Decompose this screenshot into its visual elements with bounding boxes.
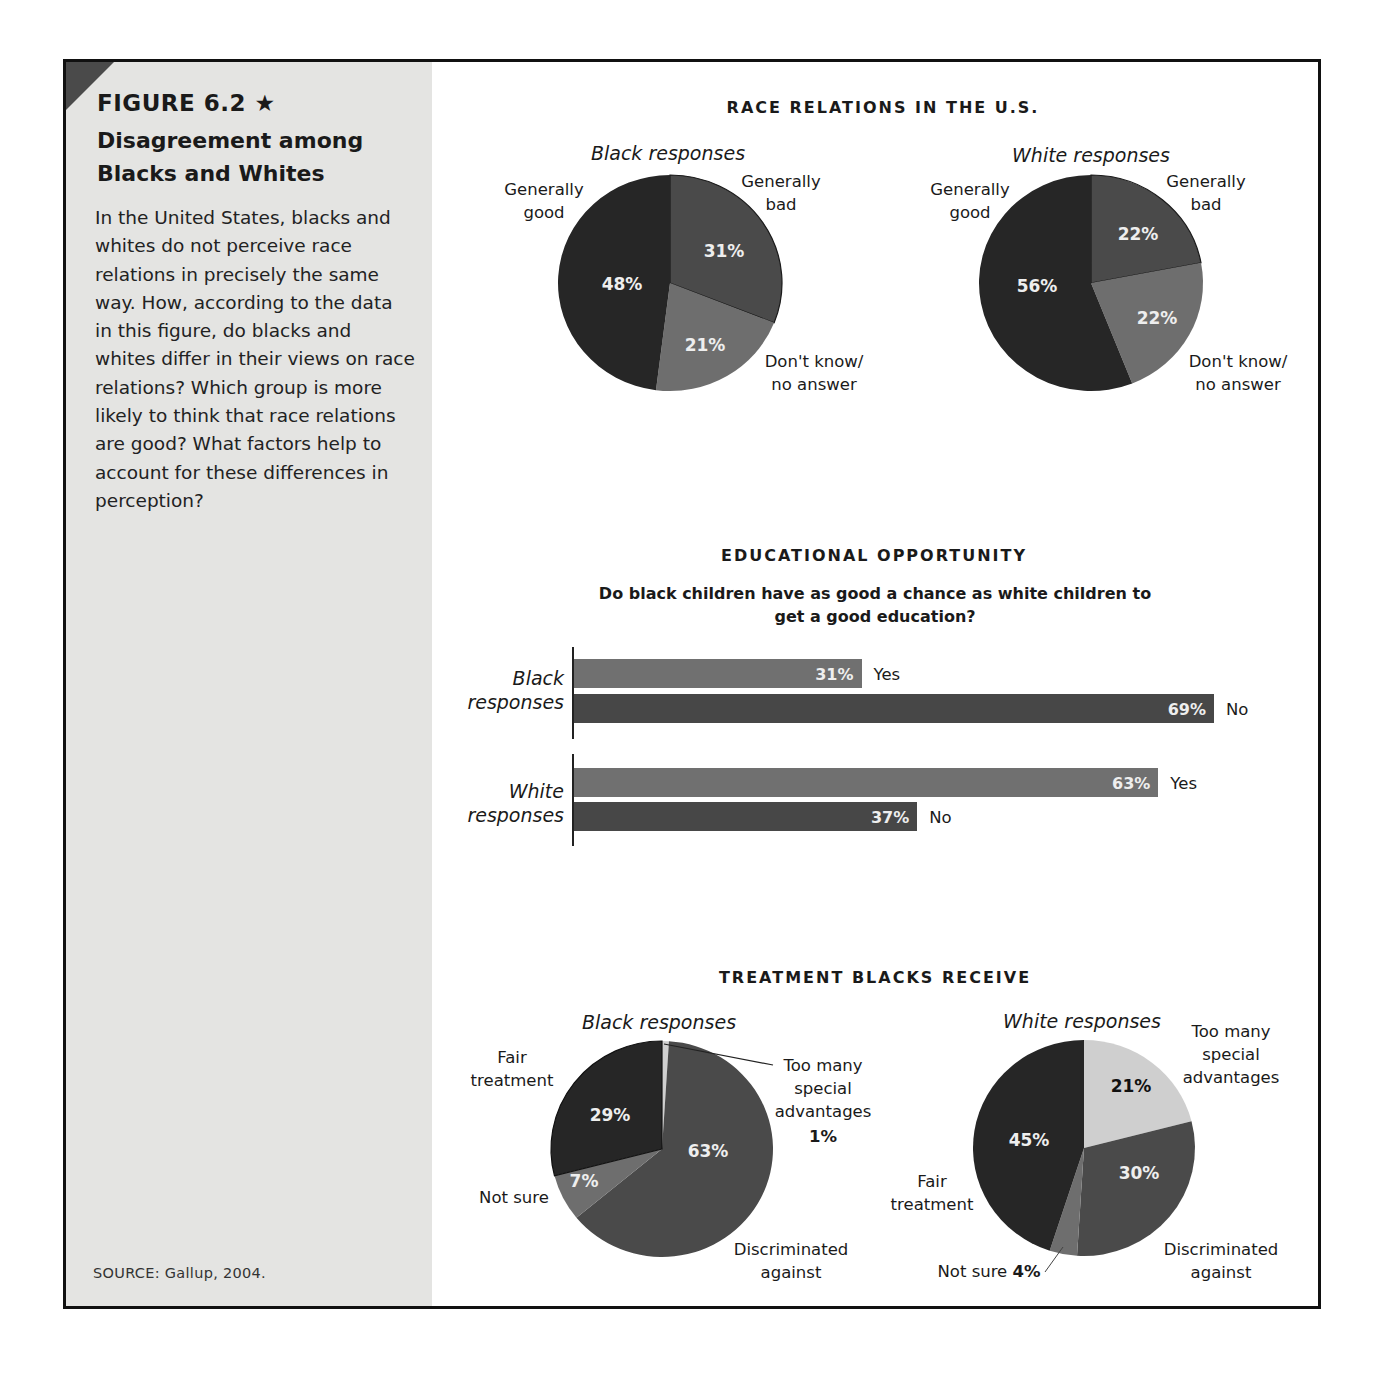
treatment-black-value-too-many: 1%	[809, 1125, 837, 1148]
treatment-black-pie	[550, 1039, 774, 1259]
race-white-value-bad: 22%	[1118, 224, 1159, 244]
education-black-yes-value: 31%	[815, 664, 853, 683]
race-black-label-good: Generallygood	[504, 178, 583, 224]
education-black-label: Blackresponses	[464, 666, 564, 714]
treatment-white-label-fair: Fairtreatment	[891, 1170, 974, 1216]
race-white-value-good: 56%	[1017, 276, 1058, 296]
not-sure-text: Not sure	[937, 1262, 1007, 1281]
figure-sidebar: FIGURE 6.2 ★ Disagreement among Blacks a…	[66, 62, 432, 1306]
treatment-black-label-discriminated: Discriminatedagainst	[734, 1238, 849, 1284]
treatment-black-value-not-sure: 7%	[570, 1171, 599, 1191]
race-white-label-dk: Don't know/no answer	[1189, 350, 1288, 396]
source-note: SOURCE: Gallup, 2004.	[93, 1265, 266, 1281]
figure-title: Disagreement among Blacks and Whites	[97, 124, 417, 190]
treatment-black-label-too-many: Too manyspecialadvantages	[775, 1054, 872, 1123]
star-icon: ★	[255, 90, 276, 116]
education-black-yes-bar: 31% Yes	[574, 659, 862, 688]
treatment-white-value-fair: 45%	[1009, 1130, 1050, 1150]
race-black-value-bad: 31%	[704, 241, 745, 261]
education-black-no-bar: 69% No	[574, 694, 1214, 723]
education-white-group: Whiteresponses 63% Yes 37% No	[572, 754, 1292, 846]
race-relations-title: RACE RELATIONS IN THE U.S.	[727, 98, 1040, 117]
treatment-title: TREATMENT BLACKS RECEIVE	[719, 968, 1031, 987]
treatment-black-label-not-sure: Not sure	[479, 1186, 549, 1209]
treatment-white-value-discriminated: 30%	[1119, 1163, 1160, 1183]
race-black-label-bad: Generallybad	[741, 170, 820, 216]
race-white-value-dk: 22%	[1137, 308, 1178, 328]
treatment-white-label-too-many: Too manyspecialadvantages	[1183, 1020, 1280, 1089]
education-white-no-value: 37%	[871, 807, 909, 826]
education-black-no-value: 69%	[1168, 699, 1206, 718]
race-black-value-good: 48%	[602, 274, 643, 294]
education-white-label: Whiteresponses	[464, 779, 564, 827]
treatment-white-value-too-many: 21%	[1111, 1076, 1152, 1096]
treatment-black-value-fair: 29%	[590, 1105, 631, 1125]
education-black-no-label: No	[1226, 699, 1248, 718]
figure-number: FIGURE 6.2	[97, 90, 246, 116]
race-white-pie-title: White responses	[1012, 144, 1170, 166]
education-title: EDUCATIONAL OPPORTUNITY	[721, 546, 1027, 565]
treatment-white-pie-title: White responses	[1003, 1010, 1161, 1032]
race-black-label-dk: Don't know/no answer	[765, 350, 864, 396]
leader-line	[1039, 1244, 1069, 1276]
education-white-yes-bar: 63% Yes	[574, 768, 1158, 797]
treatment-black-pie-title: Black responses	[582, 1011, 736, 1033]
figure-frame: FIGURE 6.2 ★ Disagreement among Blacks a…	[63, 59, 1321, 1309]
education-white-no-bar: 37% No	[574, 802, 917, 831]
race-black-value-dk: 21%	[685, 335, 726, 355]
race-white-label-good: Generallygood	[930, 178, 1009, 224]
figure-label: FIGURE 6.2 ★	[97, 90, 276, 116]
treatment-black-label-fair: Fairtreatment	[471, 1046, 554, 1092]
treatment-black-value-discriminated: 63%	[688, 1141, 729, 1161]
chart-area: RACE RELATIONS IN THE U.S. Black respons…	[432, 62, 1318, 1306]
race-white-label-bad: Generallybad	[1166, 170, 1245, 216]
treatment-white-pie	[972, 1038, 1196, 1258]
education-black-yes-label: Yes	[874, 664, 901, 683]
treatment-white-value-not-sure: 4%	[1013, 1262, 1041, 1281]
figure-caption: In the United States, blacks and whites …	[95, 204, 415, 515]
education-white-yes-label: Yes	[1170, 773, 1197, 792]
treatment-white-label-not-sure: Not sure 4%	[937, 1260, 1040, 1283]
education-white-yes-value: 63%	[1112, 773, 1150, 792]
education-white-no-label: No	[929, 807, 951, 826]
leader-line	[661, 1040, 781, 1070]
education-black-group: Blackresponses 31% Yes 69% No	[572, 647, 1292, 739]
race-black-pie-title: Black responses	[591, 142, 745, 164]
treatment-white-label-discriminated: Discriminatedagainst	[1164, 1238, 1279, 1284]
education-question: Do black children have as good a chance …	[595, 582, 1155, 628]
